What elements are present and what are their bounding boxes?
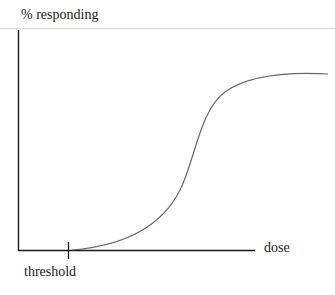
threshold-label: threshold bbox=[24, 264, 76, 280]
x-axis-label: dose bbox=[264, 240, 290, 256]
y-axis-label: % responding bbox=[21, 7, 98, 23]
dose-response-curve bbox=[72, 73, 328, 250]
